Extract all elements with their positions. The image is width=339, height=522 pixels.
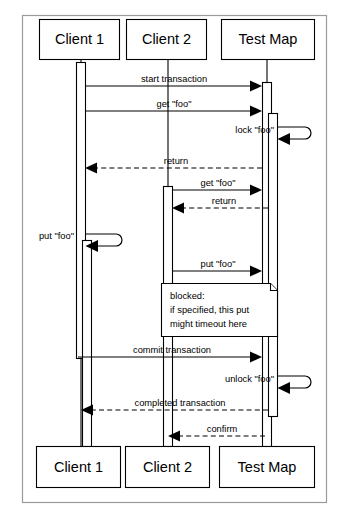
activation-bars [77,63,278,447]
arrowhead-icon [172,203,184,214]
arrowhead-icon [250,106,262,117]
message-label: get "foo" [200,178,235,188]
lifelines [81,59,267,447]
message-start-transaction: start transaction [85,74,262,92]
activation-client1-nested [83,241,92,447]
activation-testmap-nested [269,114,278,417]
participant-box-client2-top[interactable]: Client 2 [127,20,207,60]
sequence-diagram-canvas: start transaction get "foo" lock "foo" r… [0,0,339,522]
participant-label: Client 1 [55,31,104,47]
message-label: put "foo" [39,231,74,241]
diagram-frame [23,16,327,503]
arrowhead-icon [85,163,97,174]
message-get-foo-client1: get "foo" [85,99,262,117]
arrowhead-icon [250,266,262,277]
message-get-foo-client2: get "foo" [172,178,262,196]
arrowhead-icon [250,81,262,92]
participant-label: Client 1 [54,459,103,475]
message-label: completed transaction [135,398,226,408]
participant-box-client2-bottom[interactable]: Client 2 [126,447,210,488]
note-line-2: if specified, this put [170,305,249,315]
participant-box-testmap-top[interactable]: Test Map [222,20,315,60]
arrowhead-icon [250,352,262,363]
sequence-diagram-svg: start transaction get "foo" lock "foo" r… [0,0,339,522]
arrowhead-icon [278,133,291,145]
note-line-1: blocked: [170,291,205,301]
participant-label: Client 2 [143,459,192,475]
message-put-foo-client2: put "foo" [172,259,262,277]
header-participant-boxes: Client 1 Client 2 Test Map [40,20,315,60]
note-blocked: blocked: if specified, this put might ti… [162,284,278,337]
participant-label: Test Map [239,31,298,47]
message-label: start transaction [141,74,207,84]
participant-box-client1-bottom[interactable]: Client 1 [37,447,121,488]
message-label: get "foo" [156,99,191,109]
message-label: return [212,196,236,206]
message-completed-transaction: completed transaction [81,398,268,416]
footer-participant-boxes: Client 1 Client 2 Test Map [37,447,315,488]
message-confirm: confirm [168,424,265,442]
message-label: return [164,156,188,166]
arrowhead-icon [250,185,262,196]
message-label: put "foo" [200,259,235,269]
message-return-to-client2: return [172,196,268,214]
message-label: commit transaction [133,345,211,355]
message-return-to-client1: return [85,156,262,174]
participant-box-client1-top[interactable]: Client 1 [40,20,120,60]
message-label: unlock "foo" [225,374,274,384]
participant-box-testmap-bottom[interactable]: Test Map [220,447,315,488]
message-label: lock "foo" [235,125,274,135]
arrowhead-icon [278,382,291,394]
participant-label: Client 2 [142,31,191,47]
participant-label: Test Map [238,459,297,475]
note-line-3: might timeout here [170,319,247,329]
message-label: confirm [207,424,238,434]
